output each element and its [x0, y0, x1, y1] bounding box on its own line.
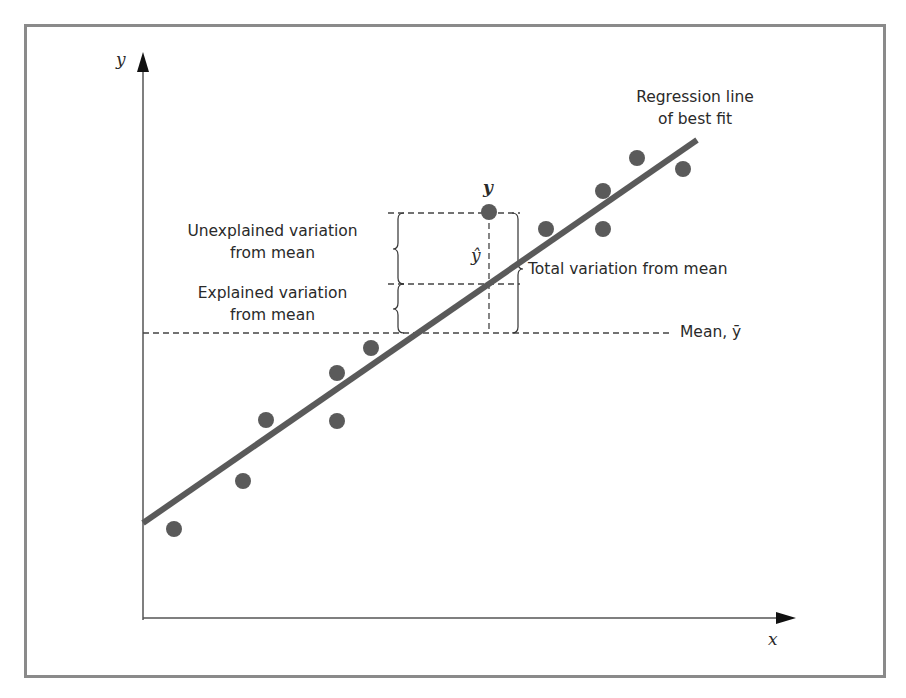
unexplained-brace: [393, 213, 404, 284]
explained-label-line2: from mean: [170, 304, 375, 326]
regression-diagram: [0, 0, 906, 698]
total-brace: [512, 213, 523, 333]
data-point: [595, 183, 611, 199]
y-point-label: y: [483, 176, 493, 198]
data-point: [329, 365, 345, 381]
unexplained-label-line1: Unexplained variation: [170, 220, 375, 242]
unexplained-label-line2: from mean: [170, 242, 375, 264]
unexplained-variation-label: Unexplained variation from mean: [170, 220, 375, 264]
data-points: [166, 150, 691, 537]
x-axis-label: x: [768, 628, 778, 650]
explained-label-line1: Explained variation: [170, 282, 375, 304]
explained-brace: [393, 284, 404, 333]
total-variation-label: Total variation from mean: [528, 258, 728, 280]
data-point: [595, 221, 611, 237]
data-point: [538, 221, 554, 237]
data-point: [363, 340, 379, 356]
y-hat-label: ŷ: [471, 244, 481, 266]
data-point: [329, 413, 345, 429]
data-point: [258, 412, 274, 428]
y-axis-arrow-icon: [137, 52, 149, 72]
regression-line: [143, 140, 697, 523]
regression-line-label-line2: of best fit: [620, 108, 770, 130]
x-axis-arrow-icon: [776, 612, 796, 624]
mean-label: Mean, ȳ: [680, 321, 741, 343]
data-point: [675, 161, 691, 177]
data-point: [166, 521, 182, 537]
data-point: [235, 473, 251, 489]
highlighted-data-point: [481, 204, 497, 220]
y-axis-label: y: [116, 48, 126, 70]
data-point: [629, 150, 645, 166]
regression-line-label: Regression line of best fit: [620, 86, 770, 130]
explained-variation-label: Explained variation from mean: [170, 282, 375, 326]
regression-line-label-line1: Regression line: [620, 86, 770, 108]
